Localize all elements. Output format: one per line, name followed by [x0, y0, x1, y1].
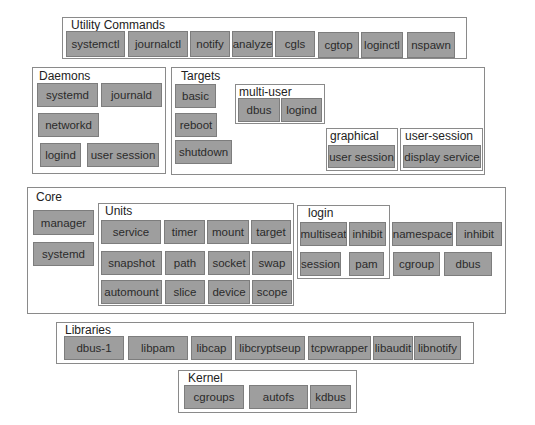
- tcpwrapper-block: tcpwrapper: [308, 336, 371, 360]
- cgroup-block: cgroup: [393, 252, 440, 276]
- manager-block: manager: [33, 210, 94, 235]
- libcap-block: libcap: [191, 336, 232, 360]
- dbus-target-block: dbus: [238, 98, 280, 122]
- shutdown-block: shutdown: [175, 140, 232, 164]
- unit-service-block: service: [101, 220, 161, 244]
- unit-swap-block: swap: [252, 251, 292, 275]
- namespace-block: namespace: [392, 222, 453, 246]
- notify-block: notify: [190, 31, 230, 57]
- dbus-core-block: dbus: [444, 252, 492, 276]
- unit-timer-block: timer: [164, 220, 205, 244]
- unit-slice-block: slice: [165, 280, 205, 304]
- targets-title: Targets: [181, 69, 220, 83]
- unit-path-block: path: [165, 251, 205, 275]
- core-title: Core: [36, 190, 62, 204]
- analyze-block: analyze: [232, 31, 273, 57]
- unit-device-block: device: [208, 280, 250, 304]
- libnotify-block: libnotify: [414, 336, 461, 360]
- dbus-1-block: dbus-1: [64, 336, 124, 360]
- unit-snapshot-block: snapshot: [101, 251, 162, 275]
- libraries-title: Libraries: [65, 323, 111, 337]
- reboot-block: reboot: [175, 113, 217, 137]
- pam-block: pam: [349, 252, 384, 276]
- autofs-block: autofs: [249, 385, 308, 409]
- unit-scope-block: scope: [252, 280, 292, 304]
- daemons-title: Daemons: [39, 69, 90, 83]
- journald-block: journald: [101, 83, 162, 107]
- multi-user-title: multi-user: [239, 85, 292, 99]
- inhibit-core-block: inhibit: [456, 222, 502, 246]
- systemd-core-block: systemd: [33, 242, 94, 266]
- nspawn-block: nspawn: [407, 32, 455, 58]
- loginctl-block: loginctl: [361, 32, 403, 58]
- cgroups-block: cgroups: [184, 385, 244, 409]
- systemd-daemon-block: systemd: [37, 83, 98, 107]
- user-session-target-block: user session: [328, 145, 395, 168]
- logind-daemon-block: logind: [40, 143, 81, 167]
- systemctl-block: systemctl: [66, 31, 125, 57]
- networkd-block: networkd: [38, 113, 99, 137]
- libcryptseup-block: libcryptseup: [235, 336, 305, 360]
- user-session-daemon-block: user session: [87, 143, 159, 167]
- kernel-title: Kernel: [188, 371, 223, 385]
- cgtop-block: cgtop: [318, 32, 359, 58]
- libpam-block: libpam: [128, 336, 188, 360]
- unit-automount-block: automount: [101, 280, 162, 304]
- logind-target-block: logind: [281, 98, 322, 122]
- session-block: session: [300, 252, 341, 276]
- cgls-block: cgls: [275, 31, 315, 57]
- units-title: Units: [105, 204, 132, 218]
- user-session-title: user-session: [405, 129, 473, 143]
- display-service-block: display service: [403, 145, 481, 168]
- unit-mount-block: mount: [207, 220, 249, 244]
- unit-target-block: target: [251, 220, 291, 244]
- basic-block: basic: [175, 84, 216, 108]
- journalctl-block: journalctl: [128, 31, 188, 57]
- utility-commands-title: Utility Commands: [71, 18, 165, 32]
- libaudit-block: libaudit: [373, 336, 413, 360]
- unit-socket-block: socket: [208, 251, 250, 275]
- graphical-title: graphical: [330, 129, 379, 143]
- multiseat-block: multiseat: [300, 222, 347, 246]
- login-title: login: [308, 206, 333, 220]
- kdbus-block: kdbus: [310, 385, 351, 409]
- inhibit-login-block: inhibit: [349, 222, 386, 246]
